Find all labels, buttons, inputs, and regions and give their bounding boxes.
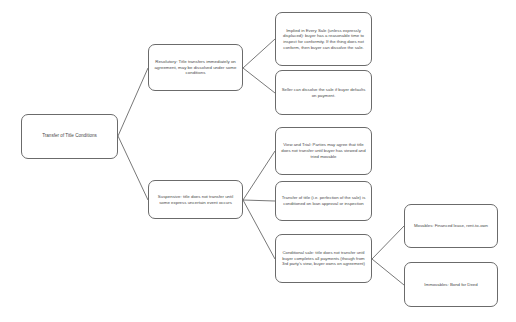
node-label: Movables: Financed lease, rent-to-own <box>409 223 493 229</box>
node-resolutory[interactable]: Resolutory: Title transfers immediately … <box>148 44 243 91</box>
edge-root-to-resolutory <box>118 68 148 136</box>
flowchart-canvas: Transfer of Title Conditions Resolutory:… <box>0 0 516 322</box>
edge-suspensive-to-conditional <box>243 200 275 259</box>
node-movables[interactable]: Movables: Financed lease, rent-to-own <box>404 204 498 248</box>
node-label: Conditional sale: title does not transfe… <box>280 250 367 267</box>
node-label: Implied in Every Sale (unless expressly … <box>280 28 367 51</box>
node-transfer-conditioned[interactable]: Transfer of title (i.e. perfection of th… <box>275 181 372 221</box>
edge-conditional-to-movables <box>372 226 404 259</box>
node-label: Resolutory: Title transfers immediately … <box>153 59 238 76</box>
node-view-and-trial[interactable]: View and Trial: Parties may agree that t… <box>275 127 372 175</box>
node-label: Transfer of Title Conditions <box>26 133 113 139</box>
node-immovables[interactable]: Immovables: Bond for Deed <box>404 262 498 307</box>
node-label: Suspensive: title does not transfer unti… <box>153 194 238 206</box>
edge-root-to-suspensive <box>118 136 148 200</box>
node-seller-can-dissolve[interactable]: Seller can dissolve the sale if buyer de… <box>275 70 372 115</box>
edge-conditional-to-immovables <box>372 259 404 285</box>
edge-suspensive-to-perfection <box>243 200 275 201</box>
node-implied-in-every-sale[interactable]: Implied in Every Sale (unless expressly … <box>275 12 372 66</box>
edge-resolutory-to-seller <box>243 68 275 93</box>
edge-suspensive-to-viewtrial <box>243 151 275 200</box>
node-transfer-of-title-conditions[interactable]: Transfer of Title Conditions <box>21 114 118 159</box>
node-label: View and Trial: Parties may agree that t… <box>280 142 367 159</box>
node-conditional-sale[interactable]: Conditional sale: title does not transfe… <box>275 234 372 283</box>
node-label: Immovables: Bond for Deed <box>409 282 493 288</box>
edge-resolutory-to-implied <box>243 39 275 68</box>
node-suspensive[interactable]: Suspensive: title does not transfer unti… <box>148 180 243 219</box>
node-label: Seller can dissolve the sale if buyer de… <box>280 87 367 98</box>
node-label: Transfer of title (i.e. perfection of th… <box>280 195 367 206</box>
